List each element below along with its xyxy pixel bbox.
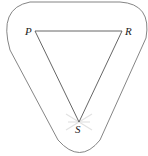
edge-r-s (79, 31, 122, 122)
vertex-label-s: S (75, 123, 81, 135)
vertex-label-r: R (124, 25, 132, 37)
vertex-label-p: P (24, 25, 32, 37)
diagram-canvas: P R S (0, 0, 148, 156)
